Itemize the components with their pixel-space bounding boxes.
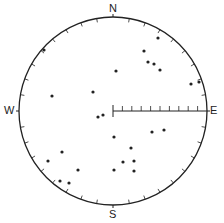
rim-tick <box>198 79 202 80</box>
data-point <box>58 179 61 182</box>
rim-tick <box>32 64 35 66</box>
data-point <box>146 60 149 63</box>
rim-tick <box>20 95 24 96</box>
rim-tick <box>144 23 145 27</box>
data-point <box>121 160 124 163</box>
data-point <box>197 80 200 83</box>
rim-tick <box>129 200 130 204</box>
north-label: N <box>109 3 117 14</box>
rim-tick <box>158 189 160 192</box>
rim-tick <box>81 23 82 27</box>
rim-tick <box>202 95 206 96</box>
data-point <box>162 128 165 131</box>
rim-tick <box>25 79 29 80</box>
rim-tick <box>41 169 44 172</box>
rim-tick <box>66 189 68 192</box>
data-point <box>132 159 135 162</box>
data-point <box>152 62 155 65</box>
rim-tick <box>53 39 56 42</box>
data-point <box>112 135 115 138</box>
data-point <box>112 168 115 171</box>
rim-tick <box>129 18 130 22</box>
rim-tick <box>97 200 98 204</box>
data-point <box>132 169 135 172</box>
rim-tick <box>97 18 98 22</box>
rim-tick <box>144 196 145 200</box>
rim-tick <box>66 30 68 33</box>
east-label: E <box>210 105 217 116</box>
rim-tick <box>191 156 194 158</box>
data-point <box>114 69 117 72</box>
rim-tick <box>182 51 185 54</box>
rim-tick <box>81 196 82 200</box>
data-point <box>76 168 79 171</box>
rim-tick <box>20 127 24 128</box>
rim-tick <box>171 180 174 183</box>
data-point <box>150 130 153 133</box>
data-point <box>189 82 192 85</box>
south-label: S <box>109 209 116 220</box>
data-point <box>91 90 94 93</box>
rim-tick <box>198 142 202 143</box>
data-point <box>156 36 159 39</box>
rim-tick <box>202 127 206 128</box>
stereonet-diagram: N E S W <box>0 0 224 223</box>
rim-tick <box>32 156 35 158</box>
data-point <box>96 115 99 118</box>
data-point <box>129 146 132 149</box>
data-point <box>142 49 145 52</box>
rim-tick <box>182 169 185 172</box>
data-point <box>42 48 45 51</box>
data-point <box>50 94 53 97</box>
stereonet-plot <box>0 0 224 223</box>
rim-tick <box>25 142 29 143</box>
rim-tick <box>191 64 194 66</box>
data-point <box>60 150 63 153</box>
rim-tick <box>171 39 174 42</box>
data-point <box>67 181 70 184</box>
data-point <box>158 68 161 71</box>
rim-tick <box>53 180 56 183</box>
data-point <box>46 159 49 162</box>
rim-tick <box>158 30 160 33</box>
west-label: W <box>4 105 14 116</box>
data-point <box>101 113 104 116</box>
